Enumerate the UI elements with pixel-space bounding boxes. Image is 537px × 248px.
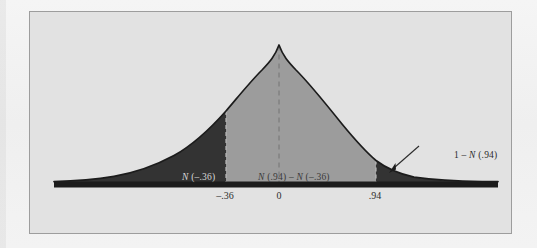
figure-page: N (–.36) N (.94) – N (–.36) 1 – N (.94) … (0, 0, 537, 248)
baseline-axis (54, 182, 498, 188)
right-tail-operator: – (462, 150, 467, 160)
x-tick-label-zero: 0 (258, 190, 300, 201)
center-area-argument-b: (–.36) (306, 172, 330, 182)
x-tick-label-neg036: –.36 (204, 190, 246, 201)
center-area-label: N (.94) – N (–.36) (258, 172, 330, 182)
center-area-symbol-a: N (258, 172, 265, 182)
x-tick-label-094: .94 (354, 190, 396, 201)
center-area-operator: – (289, 172, 294, 182)
left-area-symbol: N (182, 172, 189, 182)
left-area-argument: (–.36) (191, 172, 215, 182)
right-tail-symbol: N (469, 150, 476, 160)
left-area-label: N (–.36) (182, 172, 215, 182)
center-area (226, 45, 376, 182)
callout-arrow (389, 146, 419, 173)
center-area-symbol-b: N (296, 172, 303, 182)
right-tail-label: 1 – N (.94) (454, 150, 497, 160)
right-tail-argument: (.94) (478, 150, 497, 160)
center-area-argument-a: (.94) (267, 172, 286, 182)
right-tail-one: 1 (454, 150, 459, 160)
